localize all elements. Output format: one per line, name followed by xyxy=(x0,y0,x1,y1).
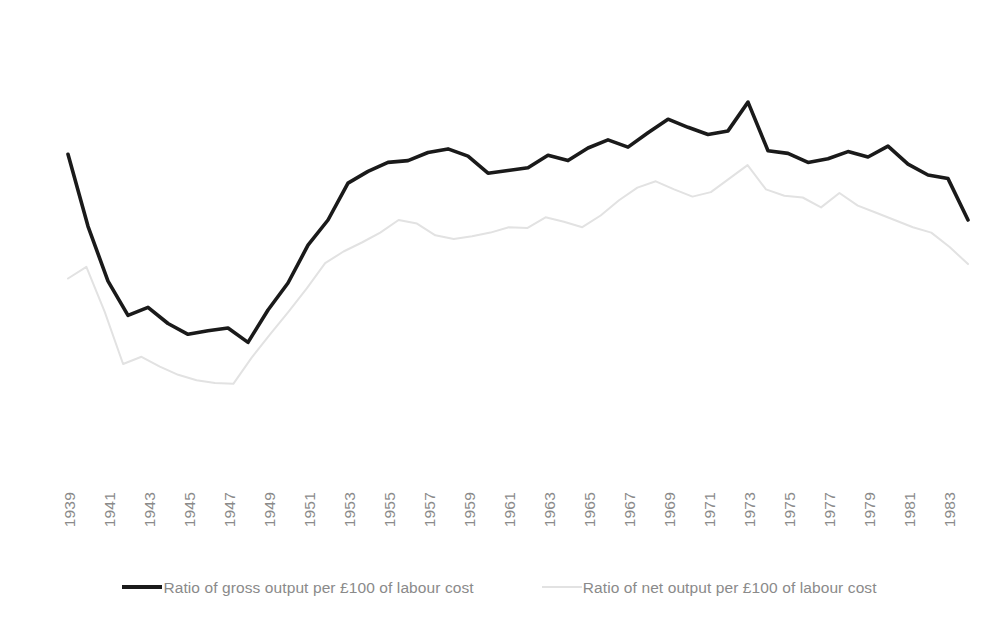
plot-area xyxy=(0,0,999,628)
plot-svg xyxy=(0,0,999,628)
legend-label-gross: Ratio of gross output per £100 of labour… xyxy=(163,579,473,596)
legend-swatch-gross-icon xyxy=(122,585,162,589)
line-chart: 600550500450400350300250200150100 193919… xyxy=(0,0,999,628)
series-net-line xyxy=(68,165,968,384)
legend-label-net: Ratio of net output per £100 of labour c… xyxy=(583,579,877,596)
chart-legend: Ratio of gross output per £100 of labour… xyxy=(0,570,999,604)
legend-swatch-net-icon xyxy=(542,586,582,588)
legend-item-net[interactable]: Ratio of net output per £100 of labour c… xyxy=(542,579,877,596)
legend-item-gross[interactable]: Ratio of gross output per £100 of labour… xyxy=(122,579,473,596)
series-gross-line xyxy=(68,102,968,342)
